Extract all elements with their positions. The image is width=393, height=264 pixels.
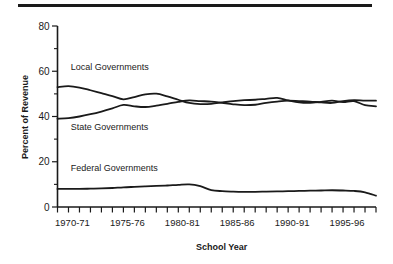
y-tick-label-80: 80 [38, 21, 50, 32]
y-axis-title: Percent of Revenue [20, 75, 30, 159]
line-chart: 0204060801970-711975-761980-811985-86199… [0, 0, 393, 264]
x-tick-label-1990-91: 1990-91 [275, 217, 310, 228]
y-tick-label-0: 0 [44, 202, 50, 213]
series-label-state-governments: State Governments [71, 122, 149, 132]
series-label-federal-governments: Federal Governments [71, 163, 159, 173]
x-tick-label-1985-86: 1985-86 [220, 217, 255, 228]
y-tick-label-40: 40 [38, 111, 50, 122]
series-line-state-governments [58, 100, 377, 119]
x-tick-label-1980-81: 1980-81 [165, 217, 200, 228]
x-tick-label-1995-96: 1995-96 [330, 217, 365, 228]
y-tick-label-60: 60 [38, 66, 50, 77]
y-tick-label-20: 20 [38, 156, 50, 167]
x-tick-label-1970-71: 1970-71 [55, 217, 90, 228]
x-tick-label-1975-76: 1975-76 [110, 217, 145, 228]
x-axis-title: School Year [196, 242, 248, 252]
series-line-federal-governments [58, 184, 377, 195]
chart-canvas: 0204060801970-711975-761980-811985-86199… [0, 0, 393, 264]
series-label-local-governments: Local Governments [71, 62, 150, 72]
